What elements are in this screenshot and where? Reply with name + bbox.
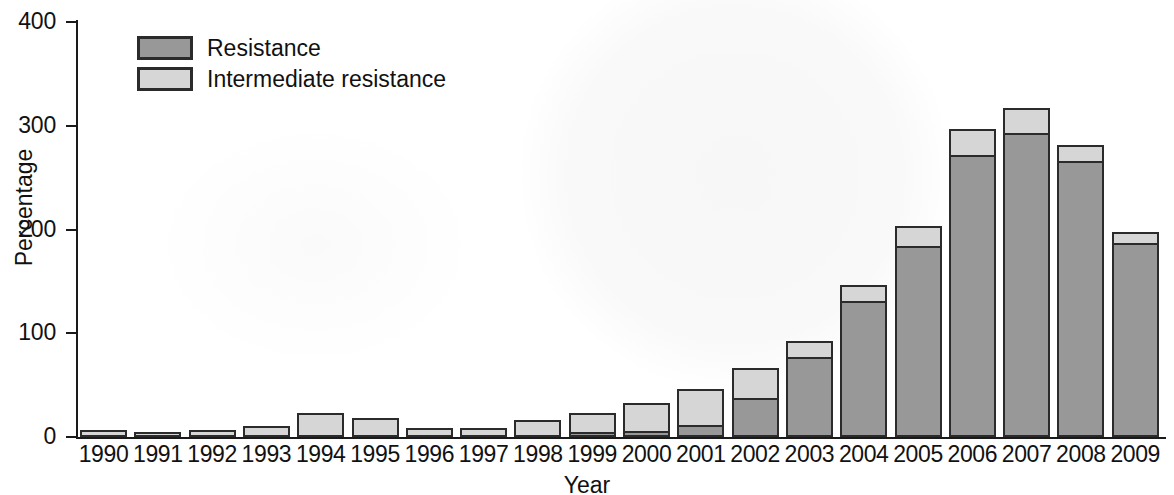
- segment-intermediate-resistance: [895, 226, 942, 247]
- bar-1992: [189, 430, 236, 437]
- bar-2000: [623, 403, 670, 437]
- x-tick-label-1996: 1996: [403, 442, 456, 466]
- segment-resistance: [1057, 162, 1104, 437]
- bar-stack: [297, 413, 344, 437]
- x-tick-label-1998: 1998: [511, 442, 564, 466]
- bar-2007: [1003, 108, 1050, 437]
- segment-intermediate-resistance: [514, 420, 561, 437]
- bar-stack: [732, 368, 779, 438]
- bar-stack: [677, 389, 724, 437]
- segment-resistance: [732, 399, 779, 437]
- x-tick-label-2001: 2001: [674, 442, 727, 466]
- segment-resistance: [1112, 244, 1159, 437]
- bar-stack: [80, 430, 127, 437]
- x-tick-label-2009: 2009: [1109, 442, 1162, 466]
- bar-stack: [406, 428, 453, 437]
- segment-resistance: [677, 426, 724, 437]
- legend-item-intermediate-resistance: Intermediate resistance: [137, 67, 446, 91]
- y-tick-label: 0: [43, 425, 56, 448]
- segment-intermediate-resistance: [406, 428, 453, 437]
- y-axis-title: Percentage: [13, 118, 36, 298]
- segment-resistance: [840, 302, 887, 437]
- segment-intermediate-resistance: [1057, 145, 1104, 162]
- intermediate-resistance-swatch-icon: [137, 67, 193, 91]
- segment-intermediate-resistance: [949, 129, 996, 156]
- bar-1999: [569, 413, 616, 437]
- y-tick-label: 100: [18, 321, 56, 344]
- x-tick-label-2008: 2008: [1054, 442, 1107, 466]
- bar-2003: [786, 341, 833, 437]
- x-tick-label-2007: 2007: [1000, 442, 1053, 466]
- segment-resistance: [1003, 134, 1050, 437]
- x-tick-label-1990: 1990: [77, 442, 130, 466]
- x-tick-label-2004: 2004: [837, 442, 890, 466]
- bar-stack: [514, 420, 561, 437]
- segment-intermediate-resistance: [243, 426, 290, 437]
- x-tick-label-1991: 1991: [131, 442, 184, 466]
- x-axis-title: Year: [0, 474, 1174, 495]
- bar-2002: [732, 368, 779, 438]
- legend-item-resistance: Resistance: [137, 36, 446, 60]
- segment-intermediate-resistance: [732, 368, 779, 399]
- segment-resistance: [623, 432, 670, 437]
- bar-stack: [1003, 108, 1050, 437]
- segment-intermediate-resistance: [569, 413, 616, 433]
- segment-resistance: [895, 247, 942, 437]
- bar-stack: [840, 285, 887, 438]
- bar-stack: [569, 413, 616, 437]
- bar-stack: [352, 418, 399, 437]
- bar-2006: [949, 129, 996, 437]
- bar-2009: [1112, 232, 1159, 437]
- chart-legend: Resistance Intermediate resistance: [137, 36, 446, 91]
- bar-2004: [840, 285, 887, 438]
- bar-stack: [1057, 145, 1104, 437]
- bar-stack: [895, 226, 942, 437]
- bar-2005: [895, 226, 942, 437]
- segment-intermediate-resistance: [623, 403, 670, 432]
- x-tick-label-1992: 1992: [186, 442, 239, 466]
- bar-1998: [514, 420, 561, 437]
- segment-intermediate-resistance: [189, 430, 236, 437]
- x-tick-label-1997: 1997: [457, 442, 510, 466]
- bar-1993: [243, 426, 290, 437]
- x-tick-label-1993: 1993: [240, 442, 293, 466]
- segment-intermediate-resistance: [1003, 108, 1050, 134]
- segment-resistance: [569, 433, 616, 437]
- x-axis-line: [76, 437, 1166, 439]
- bar-stack: [460, 428, 507, 437]
- bar-2008: [1057, 145, 1104, 437]
- x-tick-label-2005: 2005: [892, 442, 945, 466]
- bar-stack: [134, 432, 181, 437]
- bar-1990: [80, 430, 127, 437]
- stacked-bar-chart: 0100200300400 Percentage 199019911992199…: [0, 0, 1174, 495]
- x-tick-label-2003: 2003: [783, 442, 836, 466]
- x-tick-label-1994: 1994: [294, 442, 347, 466]
- bar-stack: [243, 426, 290, 437]
- bar-stack: [1112, 232, 1159, 437]
- segment-intermediate-resistance: [786, 341, 833, 359]
- segment-intermediate-resistance: [297, 413, 344, 437]
- segment-intermediate-resistance: [1112, 232, 1159, 244]
- x-tick-label-2002: 2002: [729, 442, 782, 466]
- segment-intermediate-resistance: [840, 285, 887, 303]
- bar-1996: [406, 428, 453, 437]
- segment-intermediate-resistance: [134, 432, 181, 437]
- bar-stack: [786, 341, 833, 437]
- bar-1997: [460, 428, 507, 437]
- bar-2001: [677, 389, 724, 437]
- x-tick-label-1995: 1995: [349, 442, 402, 466]
- x-tick-label-2000: 2000: [620, 442, 673, 466]
- segment-resistance: [949, 156, 996, 437]
- x-tick-label-1999: 1999: [566, 442, 619, 466]
- legend-label-resistance: Resistance: [207, 37, 321, 60]
- bar-1994: [297, 413, 344, 437]
- y-tick-label: 400: [18, 10, 56, 33]
- bar-stack: [189, 430, 236, 437]
- bar-stack: [949, 129, 996, 437]
- legend-label-intermediate-resistance: Intermediate resistance: [207, 68, 446, 91]
- segment-resistance: [786, 358, 833, 437]
- segment-intermediate-resistance: [352, 418, 399, 437]
- resistance-swatch-icon: [137, 36, 193, 60]
- segment-intermediate-resistance: [677, 389, 724, 425]
- bar-stack: [623, 403, 670, 437]
